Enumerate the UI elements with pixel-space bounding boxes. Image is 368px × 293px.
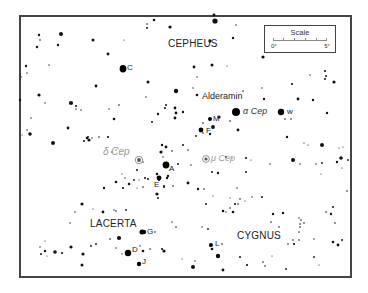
- star: [174, 107, 177, 110]
- star: [113, 118, 116, 121]
- star: [235, 24, 236, 25]
- star: [26, 72, 27, 73]
- star: [269, 163, 270, 164]
- star: [202, 122, 204, 124]
- star: [211, 64, 214, 67]
- scale-tick: [326, 38, 327, 41]
- star: [151, 121, 153, 123]
- scale-tick: [283, 38, 284, 41]
- star: [174, 89, 178, 93]
- star-j-star: [137, 262, 141, 266]
- star: [261, 55, 264, 58]
- star: [161, 248, 163, 250]
- star: [80, 202, 83, 205]
- star-g-star: [140, 230, 145, 235]
- star: [271, 255, 272, 256]
- star: [145, 96, 146, 97]
- star: [36, 46, 38, 48]
- star: [298, 239, 300, 241]
- scale-title: Scale: [265, 28, 335, 37]
- star: [232, 211, 235, 214]
- star-w-cep: [278, 109, 284, 115]
- star: [108, 108, 109, 109]
- star: [318, 264, 319, 265]
- star: [107, 136, 109, 138]
- star: [325, 211, 327, 213]
- star: [339, 156, 343, 160]
- star: [226, 65, 227, 66]
- star: [312, 99, 314, 101]
- star-f-star: [199, 128, 204, 133]
- star: [324, 78, 326, 80]
- star: [222, 210, 225, 213]
- star: [251, 196, 252, 197]
- star: [168, 25, 171, 28]
- star: [59, 32, 63, 36]
- star: [272, 213, 274, 215]
- star: [292, 239, 294, 241]
- star: [162, 156, 163, 157]
- star: [303, 222, 305, 224]
- star: [156, 173, 159, 176]
- star-l-star: [209, 243, 213, 247]
- star: [192, 87, 193, 88]
- star-m-star: [208, 117, 212, 121]
- star: [303, 142, 304, 143]
- scale-start-label: 0°: [271, 43, 277, 49]
- star: [315, 163, 316, 164]
- star: [212, 195, 213, 196]
- star: [237, 129, 240, 132]
- star: [69, 222, 70, 223]
- star: [286, 136, 288, 138]
- star: [261, 87, 262, 88]
- star: [193, 66, 196, 69]
- star: [133, 179, 135, 181]
- star: [293, 243, 295, 245]
- star: [25, 65, 27, 67]
- star: [203, 188, 205, 190]
- star: [320, 173, 321, 174]
- star: [194, 260, 195, 261]
- star: [166, 177, 168, 179]
- star: [217, 172, 219, 174]
- star: [175, 112, 178, 115]
- star: [291, 158, 295, 162]
- star: [187, 149, 189, 151]
- star: [26, 129, 27, 130]
- star: [236, 187, 237, 188]
- star: [174, 117, 177, 120]
- star: [103, 187, 105, 189]
- star: [118, 104, 120, 106]
- star: [39, 246, 40, 247]
- star: [282, 212, 284, 214]
- star: [239, 256, 241, 258]
- star: [61, 252, 63, 254]
- star: [95, 243, 97, 245]
- star: [216, 254, 220, 258]
- star-letter-f: F: [206, 127, 211, 135]
- star: [109, 238, 111, 240]
- star: [245, 171, 247, 173]
- star: [191, 265, 195, 269]
- star: [107, 53, 110, 56]
- star: [261, 196, 263, 198]
- star: [162, 249, 165, 252]
- star: [81, 252, 84, 255]
- star: [237, 203, 239, 205]
- star-letter-d: D: [132, 246, 138, 254]
- star: [115, 181, 118, 184]
- star: [175, 226, 177, 228]
- star: [244, 200, 245, 201]
- scale-tick: [273, 38, 274, 41]
- greek-label-alpha-cep: α Cep: [243, 107, 267, 116]
- star: [213, 14, 216, 17]
- star: [87, 136, 89, 138]
- star: [146, 23, 148, 25]
- star: [346, 190, 348, 192]
- star: [136, 169, 138, 171]
- star: [37, 93, 40, 96]
- star: [297, 98, 300, 101]
- star-letter-j: J: [142, 258, 146, 266]
- star: [51, 141, 55, 145]
- star: [91, 137, 92, 138]
